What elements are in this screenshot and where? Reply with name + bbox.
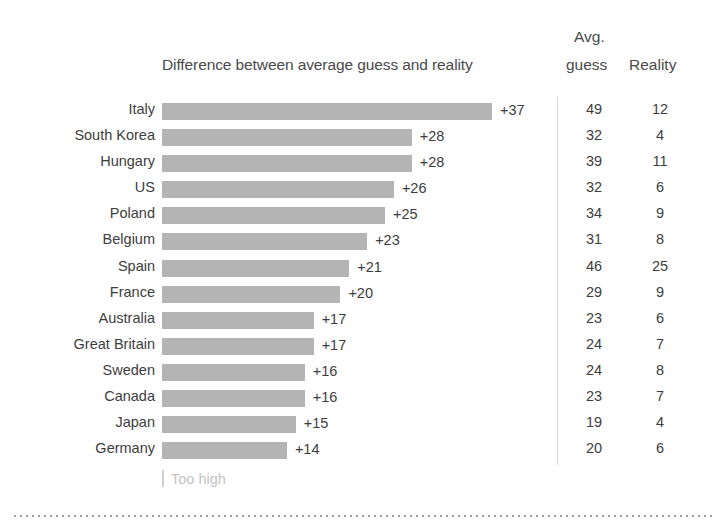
- bar: [162, 260, 349, 277]
- cell-avg-guess: 31: [566, 231, 622, 247]
- chart-row: Germany+14206: [0, 438, 719, 464]
- cell-reality: 6: [632, 310, 688, 326]
- cell-avg-guess: 34: [566, 205, 622, 221]
- bar-track: [162, 103, 492, 120]
- column-header-avg-guess: guess: [566, 56, 624, 74]
- bar-value-label: +17: [314, 337, 347, 353]
- bar-value-label: +16: [305, 363, 338, 379]
- cell-reality: 12: [632, 101, 688, 117]
- row-label-country: Belgium: [103, 231, 155, 247]
- cell-avg-guess: 23: [566, 388, 622, 404]
- bar: [162, 416, 296, 433]
- cell-reality: 9: [632, 205, 688, 221]
- bar-value-label: +26: [394, 180, 427, 196]
- bar: [162, 312, 314, 329]
- bar-track: [162, 155, 412, 172]
- row-label-country: Sweden: [103, 362, 155, 378]
- bar-value-label: +23: [367, 232, 400, 248]
- chart-row: US+26326: [0, 177, 719, 203]
- chart-row: Hungary+283911: [0, 151, 719, 177]
- chart-row: Sweden+16248: [0, 360, 719, 386]
- bar-track: [162, 364, 305, 381]
- row-label-country: Spain: [118, 258, 155, 274]
- row-label-country: Italy: [128, 101, 155, 117]
- bar-value-label: +21: [349, 259, 382, 275]
- bar-track: [162, 260, 349, 277]
- chart-row: Japan+15194: [0, 412, 719, 438]
- chart-rows: Italy+374912South Korea+28324Hungary+283…: [0, 99, 719, 464]
- bar-track: [162, 312, 314, 329]
- cell-avg-guess: 23: [566, 310, 622, 326]
- cell-avg-guess: 24: [566, 336, 622, 352]
- row-label-country: Canada: [104, 388, 155, 404]
- row-label-country: Australia: [99, 310, 155, 326]
- bar: [162, 338, 314, 355]
- chart-row: Great Britain+17247: [0, 334, 719, 360]
- cell-reality: 6: [632, 179, 688, 195]
- chart-row: France+20299: [0, 282, 719, 308]
- chart-row: Belgium+23318: [0, 229, 719, 255]
- cell-reality: 8: [632, 231, 688, 247]
- bar-value-label: +14: [287, 441, 320, 457]
- cell-reality: 25: [632, 258, 688, 274]
- bar: [162, 103, 492, 120]
- chart-container: Difference between average guess and rea…: [0, 0, 719, 532]
- row-label-country: Poland: [110, 205, 155, 221]
- bar-value-label: +15: [296, 415, 329, 431]
- bar-value-label: +25: [385, 206, 418, 222]
- bar-value-label: +28: [412, 154, 445, 170]
- bar-value-label: +20: [340, 285, 373, 301]
- cell-reality: 7: [632, 388, 688, 404]
- cell-avg-guess: 39: [566, 153, 622, 169]
- bar-value-label: +37: [492, 102, 525, 118]
- row-label-country: Germany: [95, 440, 155, 456]
- column-header-avg-line1: Avg.: [574, 28, 624, 46]
- cell-reality: 8: [632, 362, 688, 378]
- chart-row: Canada+16237: [0, 386, 719, 412]
- bar-track: [162, 207, 385, 224]
- cell-avg-guess: 32: [566, 127, 622, 143]
- bar-value-label: +28: [412, 128, 445, 144]
- chart-row: Australia+17236: [0, 308, 719, 334]
- bar: [162, 181, 394, 198]
- row-label-country: South Korea: [74, 127, 155, 143]
- row-label-country: France: [110, 284, 155, 300]
- bar-track: [162, 416, 296, 433]
- row-label-country: Great Britain: [74, 336, 155, 352]
- bar: [162, 207, 385, 224]
- row-label-country: US: [135, 179, 155, 195]
- cell-avg-guess: 19: [566, 414, 622, 430]
- chart-row: Spain+214625: [0, 256, 719, 282]
- bar-value-label: +17: [314, 311, 347, 327]
- bar-track: [162, 442, 287, 459]
- row-label-country: Hungary: [100, 153, 155, 169]
- bar: [162, 442, 287, 459]
- column-header-reality: Reality: [629, 56, 699, 74]
- cell-avg-guess: 24: [566, 362, 622, 378]
- cell-reality: 4: [632, 127, 688, 143]
- bar-track: [162, 129, 412, 146]
- bottom-dotted-rule: [12, 515, 712, 517]
- bar: [162, 129, 412, 146]
- cell-reality: 9: [632, 284, 688, 300]
- chart-row: South Korea+28324: [0, 125, 719, 151]
- cell-reality: 11: [632, 153, 688, 169]
- bar: [162, 286, 340, 303]
- cell-avg-guess: 49: [566, 101, 622, 117]
- bar: [162, 233, 367, 250]
- bar: [162, 364, 305, 381]
- cell-avg-guess: 46: [566, 258, 622, 274]
- row-label-country: Japan: [115, 414, 155, 430]
- cell-avg-guess: 20: [566, 440, 622, 456]
- bar-track: [162, 286, 340, 303]
- chart-row: Italy+374912: [0, 99, 719, 125]
- legend: Too high: [162, 470, 226, 487]
- cell-avg-guess: 29: [566, 284, 622, 300]
- cell-reality: 4: [632, 414, 688, 430]
- bar-value-label: +16: [305, 389, 338, 405]
- bar: [162, 155, 412, 172]
- cell-avg-guess: 32: [566, 179, 622, 195]
- bar-track: [162, 233, 367, 250]
- bar-track: [162, 181, 394, 198]
- chart-row: Poland+25349: [0, 203, 719, 229]
